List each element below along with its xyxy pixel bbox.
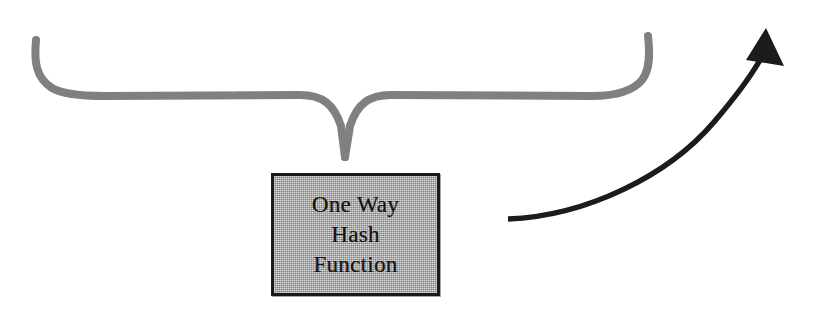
hash-box-line-1: One Way bbox=[312, 190, 399, 220]
hash-box-line-2: Hash bbox=[331, 220, 379, 250]
one-way-hash-function-box: One Way Hash Function bbox=[271, 173, 440, 296]
brace-left-arm bbox=[35, 40, 345, 157]
diagram-canvas: One Way Hash Function bbox=[0, 0, 813, 313]
curly-brace-group bbox=[35, 36, 649, 157]
output-arrow-head bbox=[746, 28, 784, 66]
brace-right-arm bbox=[345, 36, 649, 157]
hash-box-line-3: Function bbox=[313, 250, 397, 280]
